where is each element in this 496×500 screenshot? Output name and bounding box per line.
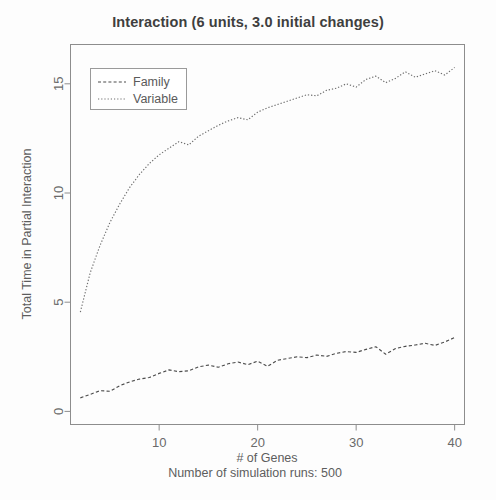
chart-sublabel: Number of simulation runs: 500	[168, 466, 342, 480]
y-tick-label: 5	[51, 299, 66, 306]
x-tick-label: 20	[250, 435, 264, 450]
y-axis-label: Total Time in Partial Interaction	[20, 149, 34, 320]
x-tick-label: 10	[152, 435, 166, 450]
y-tick-group: 051015	[51, 77, 71, 415]
y-tick-label: 15	[51, 77, 66, 91]
y-axis: 051015	[51, 45, 71, 425]
y-tick-label: 10	[51, 186, 66, 200]
x-tick-group: 10203040	[152, 425, 462, 450]
x-axis-label: # of Genes	[236, 451, 297, 465]
series-line-family	[80, 338, 454, 398]
series-group	[80, 67, 454, 397]
chart-legend: Family Variable	[91, 69, 187, 110]
x-axis: 10203040	[71, 425, 465, 450]
interaction-line-chart: Interaction (6 units, 3.0 initial change…	[0, 0, 496, 500]
x-tick-label: 40	[447, 435, 461, 450]
chart-figure: Interaction (6 units, 3.0 initial change…	[0, 0, 496, 500]
x-tick-label: 30	[349, 435, 363, 450]
y-tick-label: 0	[51, 408, 66, 415]
legend-label-variable: Variable	[133, 92, 178, 106]
chart-title: Interaction (6 units, 3.0 initial change…	[112, 14, 384, 30]
legend-label-family: Family	[133, 75, 171, 89]
